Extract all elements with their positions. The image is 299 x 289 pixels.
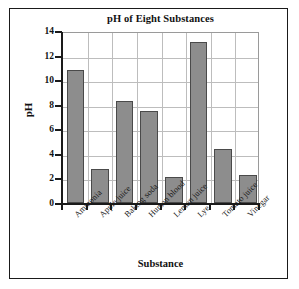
x-tick-mark bbox=[61, 203, 63, 210]
y-tick-label-text: 14 bbox=[28, 27, 54, 37]
y-tick-label: 4 bbox=[25, 150, 54, 160]
bar-series bbox=[63, 33, 258, 203]
figure-root: pH of Eight Substances 02468101214 pH Am… bbox=[0, 0, 299, 289]
bar bbox=[67, 70, 85, 203]
y-tick-mark bbox=[55, 178, 62, 180]
bar bbox=[214, 149, 232, 203]
y-axis-title: pH bbox=[22, 80, 34, 140]
y-tick-mark bbox=[55, 129, 62, 131]
y-tick-label-text: 4 bbox=[28, 150, 54, 160]
y-tick-label: 0 bbox=[25, 199, 54, 209]
y-tick-label: 14 bbox=[25, 27, 54, 37]
y-tick-label: 12 bbox=[25, 52, 54, 62]
y-tick-mark bbox=[55, 31, 62, 33]
y-tick-mark bbox=[55, 154, 62, 156]
y-tick-label-text: 0 bbox=[28, 199, 54, 209]
y-tick-label-text: 12 bbox=[28, 52, 54, 62]
y-tick-label: 2 bbox=[25, 174, 54, 184]
x-axis-title: Substance bbox=[62, 258, 259, 269]
y-tick-mark bbox=[55, 105, 62, 107]
y-tick-mark bbox=[55, 56, 62, 58]
y-tick-label-text: 2 bbox=[28, 174, 54, 184]
bar bbox=[190, 42, 208, 203]
chart-title: pH of Eight Substances bbox=[62, 13, 259, 24]
plot-area bbox=[62, 32, 259, 204]
y-tick-mark bbox=[55, 80, 62, 82]
